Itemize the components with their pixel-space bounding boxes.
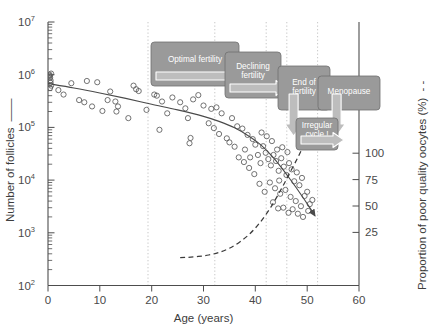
xtick-label-20: 20 [145,294,158,306]
figure-container: 102 103 104 105 106 107 0 10 20 30 40 50… [0,0,431,333]
xtick-label-40: 40 [249,294,262,306]
xtick-label-0: 0 [45,294,51,306]
callout-irregular-cycle: Irregularcycle ! [296,118,344,150]
xtick-label-60: 60 [353,294,366,306]
ytick-right-label-75: 75 [365,174,378,186]
callout-label: Optimal fertility [168,55,223,64]
xtick-label-50: 50 [301,294,314,306]
y-axis-title-left: Number of follicles—— [4,98,16,222]
callout-label: fertility [241,71,266,80]
ytick-right-label-50: 50 [365,200,378,212]
xtick-label-10: 10 [93,294,106,306]
y-axis-title-right: Proportion of poor quality oocytes (%)- … [416,81,428,290]
callout-label: Irregular [302,121,333,130]
callout-label: Declining [236,62,270,71]
x-axis-title: Age (years) [174,312,234,324]
ytick-right-label-25: 25 [365,226,378,238]
follicle-decline-chart: 102 103 104 105 106 107 0 10 20 30 40 50… [0,0,431,333]
ytick-right-label-100: 100 [365,147,384,159]
xtick-label-30: 30 [197,294,210,306]
callout-label: End of [292,78,316,87]
